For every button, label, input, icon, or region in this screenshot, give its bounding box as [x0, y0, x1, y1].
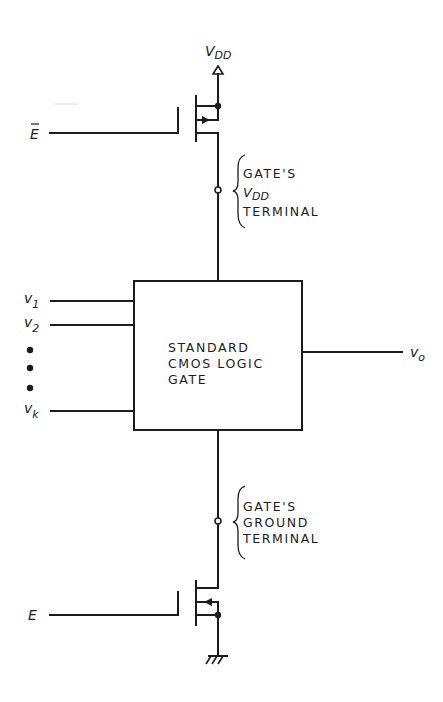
output-label: vo	[410, 344, 425, 364]
input-v1: v1	[24, 290, 134, 311]
input-vk-label: vk	[24, 400, 39, 421]
ground-terminal-node	[215, 518, 221, 524]
upper-annotation-line2: VDD	[243, 185, 269, 203]
upper-annotation: GATE'S VDD TERMINAL	[242, 166, 319, 219]
logic-block-line1: STANDARD	[168, 340, 250, 355]
ellipsis-dot	[27, 365, 33, 371]
logic-block-line3: GATE	[168, 372, 207, 387]
vdd-label: VDD	[205, 43, 232, 62]
ellipsis-dot	[27, 347, 33, 353]
vdd-arrow-icon	[213, 66, 223, 74]
lower-annotation-line3: TERMINAL	[242, 531, 319, 546]
ground-icon	[206, 656, 227, 664]
ellipsis-dot	[27, 385, 33, 391]
pmos-body-arrow-icon	[202, 116, 210, 124]
cmos-enable-gate-schematic: VDD E GATE'S VDD TERMINAL	[0, 0, 443, 702]
output-vo: vo	[302, 344, 425, 364]
nmos-body-arrow-icon	[204, 598, 212, 606]
pmos-transistor	[50, 96, 221, 280]
upper-annotation-line1: GATE'S	[243, 166, 297, 181]
input-v2: v2	[24, 314, 134, 335]
lower-annotation-line2: GROUND	[243, 515, 309, 530]
e-label: E	[28, 607, 37, 623]
input-v1-label: v1	[24, 290, 39, 311]
nmos-transistor	[50, 581, 221, 656]
vdd-terminal-node	[215, 187, 221, 193]
logic-block-label: STANDARD CMOS LOGIC GATE	[168, 340, 264, 387]
lower-annotation: GATE'S GROUND TERMINAL	[242, 499, 319, 546]
ebar-label: E	[30, 126, 39, 142]
input-v2-label: v2	[24, 314, 39, 335]
input-vk: vk	[24, 400, 134, 421]
logic-block-line2: CMOS LOGIC	[168, 356, 264, 371]
input-ellipsis	[27, 347, 33, 391]
upper-annotation-line3: TERMINAL	[242, 204, 319, 219]
lower-annotation-line1: GATE'S	[243, 499, 297, 514]
vdd-supply: VDD	[205, 43, 232, 106]
